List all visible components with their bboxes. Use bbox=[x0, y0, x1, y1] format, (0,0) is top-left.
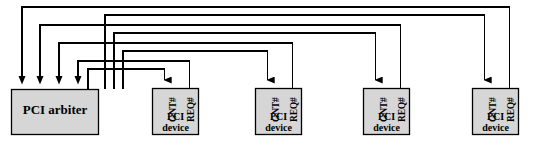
device-4-req-label: REQ# bbox=[506, 97, 516, 122]
wire-gnt-1 bbox=[88, 69, 165, 89]
wire-req-4 bbox=[22, 7, 510, 88]
device-3-gnt-label: GNT# bbox=[379, 97, 389, 122]
diagram-canvas bbox=[0, 0, 534, 146]
device-3-req-label: REQ# bbox=[397, 97, 407, 122]
device-2-req-label: REQ# bbox=[289, 97, 299, 122]
device-2-gnt-label: GNT# bbox=[271, 97, 281, 122]
device-4-gnt-label: GNT# bbox=[488, 97, 498, 122]
device-1-req-label: REQ# bbox=[186, 97, 196, 122]
wire-gnt-4 bbox=[105, 15, 485, 89]
wire-gnt-2 bbox=[123, 51, 268, 89]
device-1-gnt-label: GNT# bbox=[168, 97, 178, 122]
pci-arbitration-diagram: PCI arbiter GNT# REQ# PCI device GNT# RE… bbox=[0, 0, 534, 146]
wire-req-3 bbox=[40, 25, 401, 88]
arbiter-input-arrowheads bbox=[19, 76, 82, 85]
pci-arbiter-box bbox=[12, 90, 99, 135]
wire-req-2 bbox=[59, 43, 293, 88]
wire-req-1 bbox=[78, 61, 190, 88]
